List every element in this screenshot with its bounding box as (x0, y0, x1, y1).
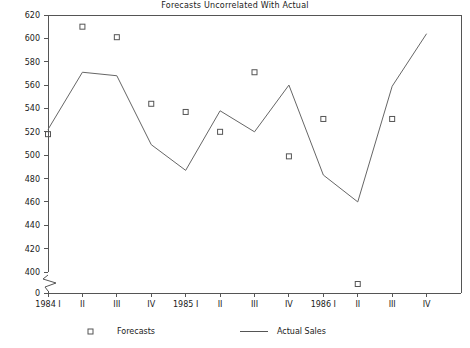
forecast-data-point (183, 109, 188, 114)
legend-actual-sales-label: Actual Sales (277, 327, 326, 336)
x-axis-tick-group: 1984 IIIIIIIV1985 IIIIIIIV1986 IIIIIIIV (35, 293, 431, 309)
forecast-data-point (321, 116, 326, 121)
x-axis-tick-label: III (389, 300, 396, 309)
x-axis-tick-label: 1986 I (311, 300, 336, 309)
y-axis-tick-label: 460 (25, 198, 40, 207)
forecast-data-point (149, 101, 154, 106)
chart-container: Forecasts Uncorrelated With Actual 62060… (0, 0, 470, 348)
legend-forecasts-marker-icon (88, 329, 93, 334)
y-axis-tick-label: 620 (25, 11, 40, 20)
y-axis-tick-label: 0 (35, 289, 40, 298)
x-axis-tick-label: 1984 I (35, 300, 60, 309)
forecast-data-point (218, 129, 223, 134)
y-axis-tick-label: 480 (25, 175, 40, 184)
chart-plot-area: 6206005805605405205004804604404204000 19… (0, 0, 470, 348)
forecast-data-point (286, 154, 291, 159)
legend: Forecasts Actual Sales (88, 327, 326, 336)
x-axis-tick-label: IV (285, 300, 293, 309)
x-axis-tick-label: 1985 I (173, 300, 198, 309)
y-axis-tick-label: 400 (25, 268, 40, 277)
x-axis-tick-label: IV (147, 300, 155, 309)
x-axis-tick-label: II (355, 300, 360, 309)
x-axis-tick-label: II (80, 300, 85, 309)
legend-forecasts-label: Forecasts (117, 327, 155, 336)
y-axis-tick-group: 6206005805605405205004804604404204000 (25, 11, 48, 298)
series-actual-sales (48, 34, 427, 202)
y-axis-tick-label: 520 (25, 128, 40, 137)
forecast-data-point (114, 35, 119, 40)
y-axis-tick-label: 440 (25, 221, 40, 230)
x-axis-tick-label: IV (423, 300, 431, 309)
x-axis-tick-label: III (251, 300, 258, 309)
y-axis-tick-label: 580 (25, 58, 40, 67)
forecast-data-point (80, 24, 85, 29)
y-axis-tick-label: 500 (25, 151, 40, 160)
y-axis-tick-label: 540 (25, 104, 40, 113)
y-axis-tick-label: 560 (25, 81, 40, 90)
forecast-data-point (390, 116, 395, 121)
forecast-data-point (252, 70, 257, 75)
y-axis-tick-label: 600 (25, 34, 40, 43)
x-axis-tick-label: III (113, 300, 120, 309)
forecast-data-point (355, 282, 360, 287)
x-axis-tick-label: II (218, 300, 223, 309)
series-forecasts (46, 24, 395, 286)
y-axis-break-icon (43, 275, 56, 291)
y-axis-tick-label: 420 (25, 245, 40, 254)
actual-sales-line (48, 34, 427, 202)
